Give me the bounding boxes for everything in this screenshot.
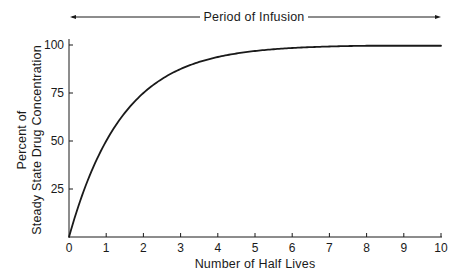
y-axis-title-line2: Steady State Drug Concentration [30, 45, 44, 235]
x-axis-title: Number of Half Lives [195, 257, 316, 271]
chart: Period of Infusion 255075100 01234567891… [0, 0, 468, 275]
x-tick-label: 5 [252, 241, 259, 255]
x-tick-label: 7 [326, 241, 333, 255]
x-tick-label: 6 [289, 241, 296, 255]
x-tick-label: 4 [214, 241, 221, 255]
x-axis: 012345678910 [66, 233, 448, 255]
infusion-period-arrow: Period of Infusion [70, 10, 441, 24]
x-axis-ticks: 012345678910 [66, 233, 448, 255]
x-tick-label: 8 [363, 241, 370, 255]
arrow-left-icon [70, 15, 76, 19]
y-tick-label: 50 [51, 134, 65, 148]
x-tick-label: 3 [177, 241, 184, 255]
y-tick-label: 100 [44, 38, 64, 52]
x-tick-label: 2 [140, 241, 147, 255]
y-tick-label: 25 [51, 182, 65, 196]
x-tick-label: 1 [103, 241, 110, 255]
y-axis-title: Percent of Steady State Drug Concentrati… [15, 45, 44, 235]
y-axis: 255075100 [44, 38, 73, 237]
arrow-right-icon [435, 15, 441, 19]
concentration-curve [69, 46, 441, 237]
infusion-label: Period of Infusion [204, 10, 305, 24]
y-tick-label: 75 [51, 86, 65, 100]
chart-canvas: Period of Infusion 255075100 01234567891… [0, 0, 468, 275]
x-tick-label: 0 [66, 241, 73, 255]
y-axis-title-line1: Percent of [15, 110, 29, 169]
x-tick-label: 9 [400, 241, 407, 255]
x-tick-label: 10 [434, 241, 448, 255]
